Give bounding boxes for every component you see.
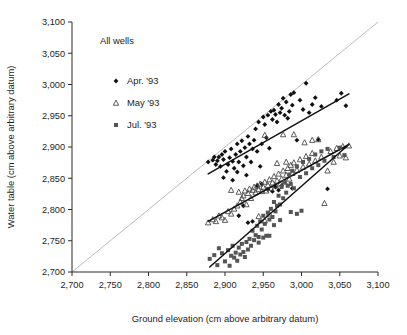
x-axis-title: Ground elevation (cm above arbitrary dat… — [132, 313, 319, 324]
data-point-square — [241, 250, 245, 254]
x-tick-label: 2,900 — [214, 280, 237, 290]
series-group-0 — [206, 81, 348, 225]
data-point-square — [272, 223, 276, 227]
data-point-diamond — [247, 141, 252, 146]
data-point-diamond — [223, 149, 228, 154]
x-tick-label: 2,700 — [61, 280, 84, 290]
data-point-diamond — [233, 152, 238, 157]
data-point-triangle — [302, 140, 307, 145]
data-point-square — [342, 153, 346, 157]
data-point-diamond — [275, 120, 280, 125]
data-point-square — [301, 160, 305, 164]
data-point-diamond — [261, 115, 266, 120]
data-point-square — [270, 215, 274, 219]
y-tick-label: 2,850 — [42, 174, 65, 184]
data-point-diamond — [270, 189, 275, 194]
data-point-square — [240, 242, 244, 246]
data-point-square — [298, 175, 302, 179]
data-point-diamond — [278, 110, 283, 115]
data-point-diamond — [339, 91, 344, 96]
data-point-diamond — [230, 178, 235, 183]
data-point-triangle — [322, 200, 327, 205]
data-point-diamond — [250, 219, 255, 224]
data-point-square — [272, 200, 276, 204]
x-tick-label: 2,750 — [99, 280, 122, 290]
data-point-triangle — [256, 213, 261, 218]
data-point-square — [292, 186, 296, 190]
data-point-diamond — [273, 112, 278, 117]
data-point-diamond — [295, 138, 300, 143]
data-point-diamond — [285, 116, 290, 121]
data-point-diamond — [343, 103, 348, 108]
data-point-square — [338, 146, 342, 150]
data-point-square — [246, 248, 250, 252]
legend-item-1[interactable]: May '93 — [113, 97, 159, 108]
data-point-diamond — [267, 146, 272, 151]
legend-item-2[interactable]: Jul. '93 — [114, 119, 156, 130]
data-point-triangle — [284, 159, 289, 164]
data-point-square — [252, 238, 256, 242]
y-tick-label: 3,000 — [42, 80, 65, 90]
data-point-diamond — [244, 155, 249, 160]
data-point-square — [261, 236, 265, 240]
data-point-square — [235, 259, 239, 263]
data-point-diamond — [281, 96, 286, 101]
data-point-square — [278, 218, 282, 222]
data-point-square — [283, 180, 287, 184]
data-point-diamond — [227, 155, 232, 160]
data-point-diamond — [235, 141, 240, 146]
data-point-diamond — [236, 160, 241, 165]
data-point-square — [310, 166, 314, 170]
data-point-triangle — [236, 189, 241, 194]
data-point-diamond — [249, 160, 254, 165]
data-point-diamond — [262, 122, 267, 127]
y-tick-label: 2,700 — [42, 267, 65, 277]
data-point-diamond — [206, 160, 211, 165]
y-tick-label: 2,800 — [42, 205, 65, 215]
data-point-diamond — [246, 134, 251, 139]
data-point-square — [243, 255, 247, 259]
x-tick-label: 2,850 — [175, 280, 198, 290]
data-point-diamond — [298, 98, 303, 103]
data-point-square — [257, 235, 261, 239]
all-wells-annotation: All wells — [100, 35, 134, 46]
data-point-square — [295, 164, 299, 168]
data-point-square — [267, 234, 271, 238]
data-point-triangle — [310, 137, 315, 142]
scatter-chart: 2,7002,7502,8002,8502,9002,9503,0003,050… — [0, 0, 407, 335]
data-point-square — [307, 157, 311, 161]
data-point-diamond — [310, 102, 315, 107]
data-point-diamond — [244, 173, 249, 178]
data-point-diamond — [301, 107, 306, 112]
x-tick-label: 3,100 — [367, 280, 390, 290]
data-point-diamond — [242, 145, 247, 150]
data-point-diamond — [290, 103, 295, 108]
x-tick-label: 2,800 — [137, 280, 160, 290]
data-point-triangle — [285, 165, 290, 170]
one-to-one-reference-line — [72, 22, 378, 272]
legend-item-0[interactable]: Apr. '93 — [114, 75, 159, 86]
data-point-diamond — [307, 110, 312, 115]
data-point-triangle — [276, 171, 281, 176]
data-point-square — [290, 169, 294, 173]
data-point-triangle — [244, 202, 249, 207]
data-point-diamond — [221, 175, 226, 180]
data-point-square — [212, 253, 216, 257]
data-point-diamond — [229, 146, 234, 151]
x-tick-label: 3,050 — [328, 280, 351, 290]
data-point-diamond — [252, 138, 257, 143]
data-point-square — [313, 153, 317, 157]
data-point-triangle — [291, 160, 296, 165]
data-point-triangle — [291, 132, 296, 137]
data-point-square — [237, 246, 241, 250]
data-point-diamond — [253, 126, 258, 131]
data-point-square — [223, 259, 227, 263]
data-point-square — [261, 214, 265, 218]
data-point-diamond — [246, 220, 251, 225]
data-point-square — [326, 147, 330, 151]
data-point-square — [322, 159, 326, 163]
data-point-diamond — [325, 186, 330, 191]
data-point-diamond — [287, 109, 292, 114]
data-point-triangle — [267, 177, 272, 182]
data-point-square — [234, 251, 238, 255]
